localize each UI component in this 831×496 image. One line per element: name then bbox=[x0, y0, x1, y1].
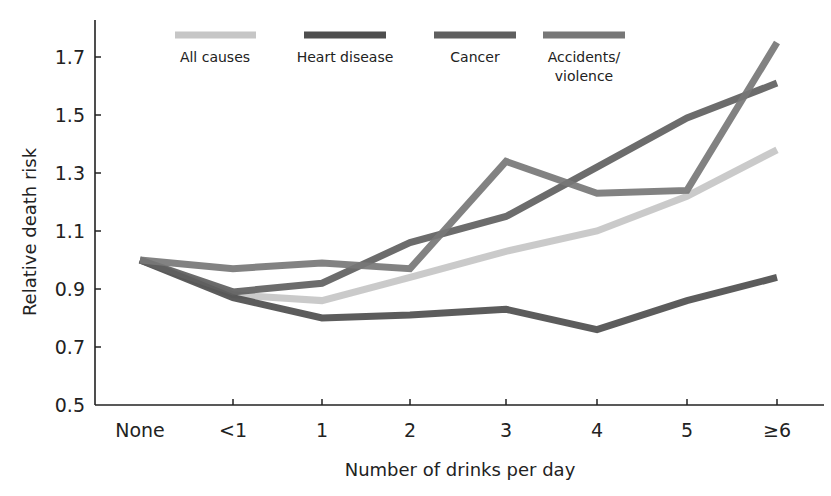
data-series bbox=[140, 43, 777, 330]
y-tick-label: 1.7 bbox=[55, 46, 85, 68]
y-tick-label: 1.5 bbox=[55, 104, 85, 126]
series-all-causes bbox=[140, 150, 777, 301]
x-tick-label: <1 bbox=[219, 419, 247, 441]
y-axis-ticks: 0.50.70.91.11.31.51.7 bbox=[55, 46, 101, 416]
y-tick-label: 1.1 bbox=[55, 220, 85, 242]
x-tick-label: 5 bbox=[681, 419, 693, 441]
legend-item-heart-disease: Heart disease bbox=[297, 35, 394, 65]
legend: All causes Heart disease Cancer Accident… bbox=[175, 35, 625, 84]
y-tick-label: 0.7 bbox=[55, 336, 85, 358]
legend-label-heart-disease: Heart disease bbox=[297, 49, 394, 65]
y-tick-label: 0.5 bbox=[55, 394, 85, 416]
legend-label-cancer: Cancer bbox=[450, 49, 500, 65]
y-axis-title: Relative death risk bbox=[19, 147, 40, 316]
series-accidents-violence bbox=[140, 43, 777, 269]
y-tick-label: 0.9 bbox=[55, 278, 85, 300]
x-axis-title: Number of drinks per day bbox=[345, 459, 576, 480]
x-tick-label: None bbox=[115, 419, 165, 441]
legend-item-cancer: Cancer bbox=[434, 35, 516, 65]
x-tick-label: 1 bbox=[316, 419, 328, 441]
line-chart: 0.50.70.91.11.31.51.7 None<112345≥6 Numb… bbox=[0, 0, 831, 496]
x-tick-label: ≥6 bbox=[763, 419, 791, 441]
x-tick-label: 3 bbox=[500, 419, 512, 441]
x-tick-label: 2 bbox=[404, 419, 416, 441]
legend-label-accidents-line2: violence bbox=[555, 68, 613, 84]
y-tick-label: 1.3 bbox=[55, 162, 85, 184]
legend-label-all-causes: All causes bbox=[180, 49, 250, 65]
legend-item-accidents-violence: Accidents/ violence bbox=[543, 35, 625, 84]
legend-label-accidents-line1: Accidents/ bbox=[548, 49, 621, 65]
legend-item-all-causes: All causes bbox=[175, 35, 256, 65]
x-tick-label: 4 bbox=[591, 419, 603, 441]
